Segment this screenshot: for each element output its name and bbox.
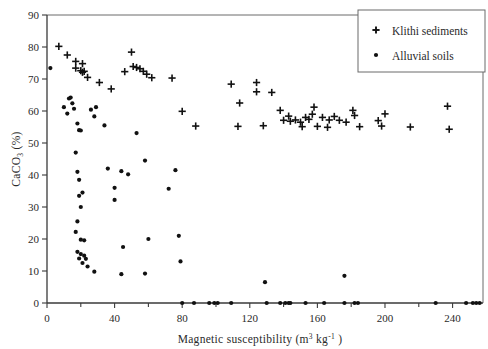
- x-tick-label: 160: [309, 312, 326, 324]
- data-point-alluvial: [102, 123, 106, 127]
- y-tick-label: 50: [28, 137, 40, 149]
- legend-box: [358, 10, 485, 72]
- y-axis-title: CaCO3 (%): [10, 131, 25, 186]
- y-tick-label: 40: [28, 169, 40, 181]
- data-point-alluvial: [92, 270, 96, 274]
- data-point-alluvial: [75, 170, 79, 174]
- data-point-alluvial: [434, 301, 438, 305]
- data-point-alluvial: [356, 301, 360, 305]
- data-point-alluvial: [77, 194, 81, 198]
- data-point-alluvial: [180, 301, 184, 305]
- data-point-alluvial: [79, 205, 83, 209]
- y-tick-label: 10: [28, 265, 40, 277]
- legend[interactable]: Klithi sedimentsAlluvial soils: [358, 10, 485, 72]
- data-point-alluvial: [119, 272, 123, 276]
- data-point-alluvial: [48, 66, 52, 70]
- y-tick-label: 0: [34, 297, 40, 309]
- data-point-alluvial: [192, 301, 196, 305]
- y-tick-label: 20: [28, 233, 40, 245]
- data-point-alluvial: [278, 301, 282, 305]
- x-tick-label: 40: [109, 312, 121, 324]
- data-point-alluvial: [229, 301, 233, 305]
- data-point-alluvial: [72, 107, 76, 111]
- data-point-alluvial: [79, 128, 83, 132]
- data-point-alluvial: [478, 301, 482, 305]
- data-point-alluvial: [342, 274, 346, 278]
- data-point-alluvial: [82, 238, 86, 242]
- scatter-plot: 010203040506070809004080120160200240 Kli…: [0, 0, 488, 349]
- data-point-alluvial: [74, 151, 78, 155]
- x-tick-label: 200: [377, 312, 394, 324]
- data-point-alluvial: [94, 105, 98, 109]
- data-point-alluvial: [126, 172, 130, 176]
- y-tick-label: 80: [28, 41, 40, 53]
- x-tick-label: 0: [44, 312, 50, 324]
- data-point-alluvial: [77, 256, 81, 260]
- data-point-alluvial: [75, 121, 79, 125]
- data-point-alluvial: [80, 191, 84, 195]
- data-point-alluvial: [303, 301, 307, 305]
- data-point-alluvial: [143, 159, 147, 163]
- data-point-alluvial: [119, 169, 123, 173]
- x-tick-label: 80: [177, 312, 189, 324]
- data-point-alluvial: [134, 131, 138, 135]
- data-point-alluvial: [265, 301, 269, 305]
- dot-marker-icon: [374, 53, 378, 57]
- data-point-alluvial: [62, 105, 66, 109]
- data-point-alluvial: [89, 108, 93, 112]
- data-point-alluvial: [80, 261, 84, 265]
- data-point-alluvial: [70, 101, 74, 105]
- data-point-alluvial: [143, 271, 147, 275]
- data-points-group: [48, 43, 481, 305]
- x-axis-title: Magnetic susceptibility (m3 kg-1 ): [178, 332, 343, 346]
- y-tick-label: 60: [28, 105, 40, 117]
- data-point-alluvial: [74, 230, 78, 234]
- data-point-alluvial: [216, 301, 220, 305]
- x-tick-label: 240: [444, 312, 461, 324]
- data-point-alluvial: [65, 111, 69, 115]
- figure-container: 010203040506070809004080120160200240 Kli…: [0, 0, 488, 349]
- legend-entry-label: Alluvial soils: [392, 50, 454, 62]
- series-alluvial-soils: [48, 66, 481, 305]
- data-point-alluvial: [167, 187, 171, 191]
- data-point-alluvial: [112, 198, 116, 202]
- data-point-alluvial: [146, 237, 150, 241]
- data-point-alluvial: [173, 168, 177, 172]
- data-point-alluvial: [263, 280, 267, 284]
- data-point-alluvial: [121, 245, 125, 249]
- data-point-alluvial: [207, 301, 211, 305]
- data-point-alluvial: [75, 219, 79, 223]
- y-tick-label: 70: [28, 73, 40, 85]
- x-tick-label: 120: [242, 312, 259, 324]
- y-tick-label: 90: [28, 9, 40, 21]
- legend-entry-label: Klithi sediments: [392, 25, 468, 37]
- data-point-alluvial: [92, 114, 96, 118]
- data-point-alluvial: [177, 234, 181, 238]
- data-point-alluvial: [464, 301, 468, 305]
- data-point-alluvial: [77, 178, 81, 182]
- data-point-alluvial: [106, 167, 110, 171]
- data-point-alluvial: [342, 301, 346, 305]
- data-point-alluvial: [69, 95, 73, 99]
- y-tick-label: 30: [28, 201, 40, 213]
- data-point-alluvial: [288, 301, 292, 305]
- data-point-alluvial: [85, 264, 89, 268]
- data-point-alluvial: [112, 186, 116, 190]
- data-point-alluvial: [84, 257, 88, 261]
- data-point-alluvial: [322, 301, 326, 305]
- data-point-alluvial: [178, 259, 182, 263]
